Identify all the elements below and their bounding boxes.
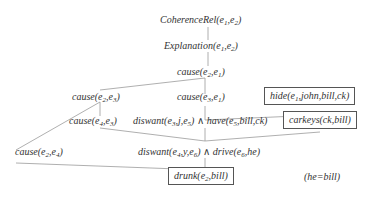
node-coherence-rel: CoherenceRel(e1,e2) <box>160 14 241 26</box>
node-diswant-have: diswant(e3,j,e5) ∧ have(e5,bill,ck) <box>133 115 267 127</box>
node-cause-e4-e3: cause(e4,e3) <box>69 115 117 127</box>
edge-cause43-children <box>100 128 320 141</box>
node-cause-e2-e4: cause(e2,e4) <box>15 146 63 158</box>
node-cause-e2-e1: cause(e2,e1) <box>177 66 225 78</box>
node-explanation: Explanation(e1,e2) <box>164 40 238 52</box>
node-cause-e2-e3: cause(e2,e3) <box>72 91 120 103</box>
node-diswant-drive: diswant(e4,y,e6) ∧ drive(e6,he) <box>138 146 260 158</box>
node-hide: hide(e1,john,bill,ck) <box>264 87 355 105</box>
diagram-canvas: CoherenceRel(e1,e2) Explanation(e1,e2) c… <box>0 0 375 202</box>
node-he-equals-bill: (he=bill) <box>304 171 340 183</box>
node-carkeys: carkeys(ck,bill) <box>283 111 357 129</box>
node-cause-e3-e1: cause(e3,e1) <box>177 91 225 103</box>
node-drunk: drunk(e2,bill) <box>168 167 234 185</box>
